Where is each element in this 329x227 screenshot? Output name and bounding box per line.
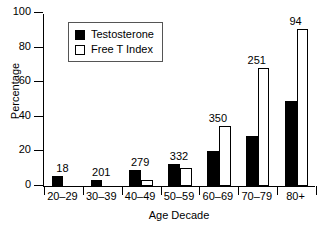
bar-testosterone [168, 164, 180, 186]
y-tick-label: 80 [19, 40, 31, 52]
x-tick-label: 50–59 [164, 190, 195, 202]
x-tick [83, 186, 84, 195]
y-tick-label: 20 [19, 143, 31, 155]
x-axis-label: Age Decade [43, 209, 315, 221]
x-tick [44, 186, 45, 195]
bar-testosterone [91, 180, 103, 186]
y-tick-label: 0 [25, 178, 31, 190]
x-tick [277, 186, 278, 195]
group-annotation: 332 [170, 150, 188, 162]
bar-free-t-index [258, 68, 270, 186]
group-annotation: 279 [131, 156, 149, 168]
x-tick [199, 186, 200, 195]
x-tick [316, 186, 317, 195]
x-tick [122, 186, 123, 195]
legend-item-free-t-index: Free T Index [75, 42, 154, 57]
filled-square-icon [75, 30, 85, 40]
y-tick-label: 40 [19, 109, 31, 121]
bar-testosterone [207, 151, 219, 186]
x-tick [238, 186, 239, 195]
group-annotation: 94 [289, 15, 301, 27]
x-tick-label: 70–79 [241, 190, 272, 202]
x-tick-label: 20–29 [47, 190, 78, 202]
hollow-square-icon [75, 45, 85, 55]
y-tick: 80 [34, 47, 43, 48]
bar-free-t-index [297, 29, 309, 186]
y-tick: 60 [34, 81, 43, 82]
bar-testosterone [285, 101, 297, 186]
group-annotation: 251 [248, 54, 266, 66]
y-tick: 20 [34, 150, 43, 151]
group-annotation: 350 [209, 112, 227, 124]
legend-item-testosterone: Testosterone [75, 27, 154, 42]
bar-chart-figure: Percentage Age Decade 020406080100 20–29… [0, 0, 329, 227]
y-tick: 40 [34, 116, 43, 117]
bar-testosterone [129, 170, 141, 186]
x-tick-label: 40–49 [125, 190, 156, 202]
bar-testosterone [246, 136, 258, 186]
x-tick-label: 60–69 [203, 190, 234, 202]
legend-label: Free T Index [91, 44, 153, 55]
x-tick [161, 186, 162, 195]
x-tick-label: 30–39 [86, 190, 117, 202]
x-tick-label: 80+ [286, 190, 305, 202]
chart-legend: Testosterone Free T Index [68, 22, 163, 62]
group-annotation: 18 [56, 162, 68, 174]
y-axis-label: Percentage [9, 46, 21, 136]
y-tick: 0 [34, 185, 43, 186]
y-tick: 100 [34, 12, 43, 13]
y-tick-label: 60 [19, 74, 31, 86]
bar-free-t-index [180, 168, 192, 186]
bar-free-t-index [219, 126, 231, 186]
bar-free-t-index [141, 180, 153, 186]
legend-label: Testosterone [91, 29, 154, 40]
y-tick-label: 100 [13, 5, 31, 17]
group-annotation: 201 [92, 166, 110, 178]
bar-testosterone [52, 176, 64, 186]
